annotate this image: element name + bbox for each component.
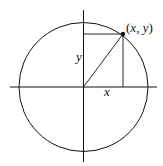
x-leg-label: x xyxy=(103,84,110,99)
point-label: (x, y) xyxy=(126,20,153,35)
unit-circle-diagram: y x (x, y) xyxy=(0,0,163,166)
radius-line xyxy=(84,34,124,87)
point-label-close: ) xyxy=(148,20,152,35)
y-leg-label: y xyxy=(74,49,82,64)
point-marker xyxy=(121,32,125,36)
